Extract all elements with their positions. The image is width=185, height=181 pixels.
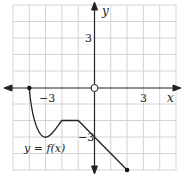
y-tick-label-neg3: −3 [78,131,94,144]
open-circle-origin [91,85,98,92]
function-label: y = f(x) [23,142,65,155]
x-axis-left-arrow-icon [4,85,12,91]
x-tick-label-neg3: −3 [39,92,55,105]
x-axis-label: x [167,91,174,105]
y-tick-label-3: 3 [85,32,92,45]
closed-endpoint-right [125,168,129,172]
closed-endpoint-left [27,86,31,90]
y-axis-up-arrow-icon [92,2,98,10]
y-axis-label: y [101,4,109,18]
x-axis-right-arrow-icon [173,85,181,91]
x-tick-label-3: 3 [140,92,147,105]
function-graph: y x 3 3 −3 −3 y = f(x) [0,0,185,181]
